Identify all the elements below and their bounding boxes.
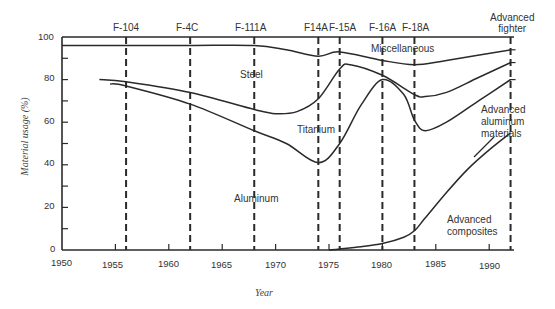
x-tick-1990: 1990 xyxy=(479,260,500,271)
x-tick-1960: 1960 xyxy=(158,258,179,269)
x-tick-1950: 1950 xyxy=(51,257,72,268)
x-tick-1980: 1980 xyxy=(371,259,392,270)
x-tick-1965: 1965 xyxy=(211,259,232,270)
y-tick-100: 100 xyxy=(38,31,54,42)
adv-comp-line2: composites xyxy=(447,226,498,238)
aircraft-label-f111a: F-111A xyxy=(235,22,266,33)
adv-al-line1: Advanced xyxy=(481,104,525,116)
x-tick-1970: 1970 xyxy=(265,259,286,270)
x-axis-ticks xyxy=(115,244,489,250)
aircraft-label-advanced-line1: Advanced xyxy=(490,12,534,23)
aircraft-label-f18a: F-18A xyxy=(402,22,429,33)
x-tick-1975: 1975 xyxy=(318,259,339,270)
y-tick-20: 20 xyxy=(44,200,55,211)
region-label-miscellaneous: Miscellaneous xyxy=(371,43,434,55)
region-label-advanced-aluminum: Advanced aluminum materials xyxy=(481,104,525,140)
adv-al-line2: aluminum xyxy=(481,116,525,128)
x-tick-1955: 1955 xyxy=(102,259,123,270)
aircraft-label-f16a: F-16A xyxy=(369,22,396,33)
aircraft-label-f14a: F14A xyxy=(304,22,328,33)
region-label-steel: Steel xyxy=(240,69,263,81)
x-axis-title: Year xyxy=(255,287,273,298)
aircraft-label-advanced-fighter: Advanced fighter xyxy=(490,12,534,34)
y-tick-80: 80 xyxy=(44,72,55,83)
titanium-boundary-curve xyxy=(110,79,511,162)
y-tick-40: 40 xyxy=(44,157,55,168)
adv-comp-line1: Advanced xyxy=(447,214,498,226)
aircraft-label-f15a: F-15A xyxy=(329,22,356,33)
steel-boundary-curve xyxy=(99,63,510,114)
y-axis-title: Material usage (%) xyxy=(19,97,30,175)
region-label-aluminum: Aluminum xyxy=(234,193,278,205)
region-label-advanced-composites: Advanced composites xyxy=(447,214,498,238)
y-axis-ticks xyxy=(62,58,68,228)
y-tick-60: 60 xyxy=(44,115,55,126)
aircraft-label-f104: F-104 xyxy=(113,22,139,33)
region-label-titanium: Titanium xyxy=(297,124,335,136)
adv-al-line3: materials xyxy=(481,128,525,140)
misc-boundary-curve xyxy=(62,45,511,65)
x-tick-1985: 1985 xyxy=(425,258,446,269)
aircraft-label-advanced-line2: fighter xyxy=(490,23,534,34)
material-curves xyxy=(62,45,511,250)
aircraft-label-f4c: F-4C xyxy=(176,22,198,33)
y-tick-0: 0 xyxy=(50,243,55,254)
